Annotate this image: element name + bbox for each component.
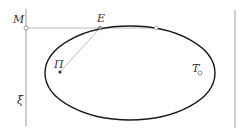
ellipse-diagram: M E Π T ξ (0, 0, 245, 132)
label-Pi: Π (53, 58, 64, 71)
label-xi: ξ (17, 94, 24, 107)
point-intersection (154, 26, 158, 30)
point-M (24, 26, 28, 30)
point-E (98, 26, 102, 30)
label-M: M (12, 13, 25, 26)
ellipse (45, 26, 215, 120)
label-E: E (96, 12, 105, 25)
